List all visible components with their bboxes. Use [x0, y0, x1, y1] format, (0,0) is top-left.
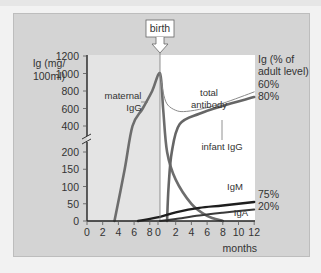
x-tick-label: 6	[131, 226, 137, 238]
x-tick-label: 8	[147, 226, 153, 238]
label-total-line2: antibody	[191, 99, 227, 110]
prenatal-background	[87, 55, 160, 221]
y-axis-right-label-line1: Ig (% of	[258, 53, 294, 65]
x-tick-label: 4	[188, 226, 194, 238]
birth-arrow-icon	[152, 37, 168, 53]
x-tick-label: 12	[248, 226, 260, 238]
label-total-line1: total	[200, 87, 218, 98]
x-tick-label: 0	[155, 226, 161, 238]
right-label-80: 80%	[258, 90, 279, 102]
y-tick-label: 150	[61, 163, 79, 175]
y-tick-label: 400	[61, 120, 79, 132]
x-tick-label: 2	[100, 226, 106, 238]
x-tick-label: 10	[233, 226, 245, 238]
y-tick-label: 0	[73, 215, 79, 227]
x-tick-label: 8	[220, 226, 226, 238]
x-axis-label: months	[223, 242, 257, 254]
label-infant-igg: infant IgG	[201, 141, 242, 152]
right-label-20: 20%	[258, 200, 279, 212]
label-iga: IgA	[234, 207, 249, 218]
label-maternal-line2: IgG	[126, 102, 141, 113]
right-label-60: 60%	[258, 78, 279, 90]
label-maternal-line1: maternal	[105, 90, 142, 101]
x-tick-label: 6	[204, 226, 210, 238]
y-axis-left-label-line1: Ig (mg/	[33, 57, 66, 69]
antibody-chart: 4006008001000120005010015020002468024681…	[0, 0, 321, 273]
y-tick-label: 50	[67, 198, 79, 210]
y-tick-label: 800	[61, 85, 79, 97]
label-igm: IgM	[227, 181, 243, 192]
birth-marker: birth	[146, 20, 174, 53]
y-tick-label: 200	[61, 146, 79, 158]
x-tick-label: 2	[173, 226, 179, 238]
y-axis-right-label-line2: adult level)	[258, 65, 309, 77]
y-axis-left-label-line2: 100ml)	[33, 70, 65, 82]
y-tick-label: 600	[61, 103, 79, 115]
y-tick-label: 100	[61, 181, 79, 193]
birth-label: birth	[150, 22, 171, 34]
x-tick-label: 4	[115, 226, 121, 238]
right-label-75: 75%	[258, 188, 279, 200]
x-tick-label: 0	[84, 226, 90, 238]
